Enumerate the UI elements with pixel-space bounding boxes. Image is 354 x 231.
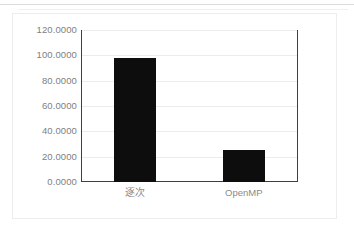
page-top-rule-secondary xyxy=(18,9,348,10)
page-top-rule xyxy=(0,4,354,5)
y-tick-label: 60.0000 xyxy=(15,101,77,111)
bars-layer xyxy=(81,30,298,182)
y-tick-label: 120.0000 xyxy=(15,25,77,35)
bar-chart: 0.000020.000040.000060.000080.0000100.00… xyxy=(13,14,338,220)
y-tick-label: 80.0000 xyxy=(15,76,77,86)
y-tick-label: 40.0000 xyxy=(15,126,77,136)
y-tick-label: 100.0000 xyxy=(15,50,77,60)
chart-card: 0.000020.000040.000060.000080.0000100.00… xyxy=(12,13,337,219)
bar[interactable] xyxy=(114,58,156,182)
x-tick-label: 逐次 xyxy=(81,186,190,200)
bar[interactable] xyxy=(223,150,265,182)
y-axis: 0.000020.000040.000060.000080.0000100.00… xyxy=(13,30,77,182)
y-tick-label: 0.0000 xyxy=(15,177,77,187)
x-axis: 逐次OpenMP xyxy=(81,186,298,206)
y-tick-label: 20.0000 xyxy=(15,152,77,162)
x-tick-label: OpenMP xyxy=(190,186,299,200)
